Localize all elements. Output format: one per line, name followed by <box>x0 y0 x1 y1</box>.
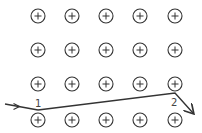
plus-charge-icon <box>65 113 79 127</box>
plus-charge-icon <box>31 113 45 127</box>
charge-grid-diagram: 1 2 <box>0 0 202 133</box>
plus-charge-icon <box>168 113 182 127</box>
plus-charge-icon <box>99 113 113 127</box>
plus-charge-icon <box>31 9 45 23</box>
plus-charge-icon <box>99 9 113 23</box>
plus-charge-icon <box>31 77 45 91</box>
plus-charge-icon <box>133 9 147 23</box>
plus-charge-icon <box>133 77 147 91</box>
plus-charge-icon <box>65 9 79 23</box>
plus-charge-icon <box>168 43 182 57</box>
plus-charge-icon <box>65 43 79 57</box>
plus-charge-icon <box>99 77 113 91</box>
plus-charge-icon <box>31 43 45 57</box>
plus-charge-icon <box>168 9 182 23</box>
plus-charge-icon <box>65 77 79 91</box>
plus-charge-icon <box>133 43 147 57</box>
plus-charge-icon <box>99 43 113 57</box>
point-2-label: 2 <box>171 97 177 108</box>
plus-charge-icon <box>168 77 182 91</box>
plus-charge-icon <box>133 113 147 127</box>
particle-path <box>5 93 193 113</box>
point-1-label: 1 <box>35 98 41 109</box>
plus-charge-grid <box>31 9 182 127</box>
